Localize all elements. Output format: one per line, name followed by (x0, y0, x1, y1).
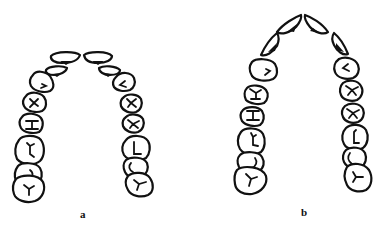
arch-b (0, 0, 385, 232)
panel-label-b: b (301, 206, 307, 218)
canine-b-left (250, 59, 277, 80)
dental-arch-figure: a b (0, 0, 385, 232)
molar-b-right-1 (342, 125, 367, 150)
incisor-b-right-lateral (333, 33, 349, 54)
canine-b-right (334, 58, 359, 79)
panel-label-a: a (80, 208, 86, 220)
